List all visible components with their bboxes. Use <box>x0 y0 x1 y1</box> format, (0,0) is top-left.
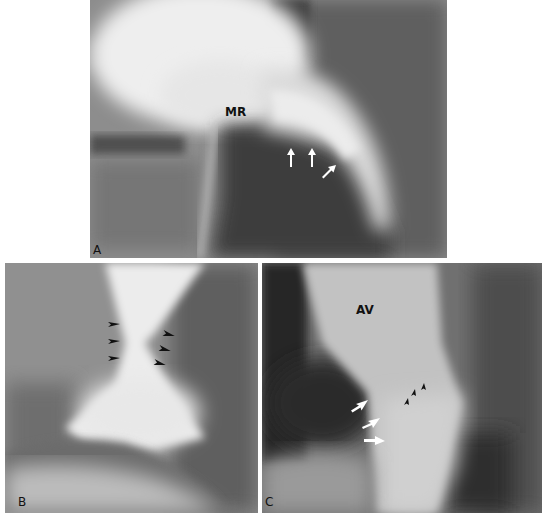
panel-a-radiograph: MR A <box>90 0 447 258</box>
white-arrow-icon <box>287 148 336 179</box>
panel-label-a: A <box>93 243 101 257</box>
panel-label-c: C <box>265 495 273 509</box>
panel-b-image <box>5 263 258 513</box>
panel-a-arrows <box>90 0 447 258</box>
panel-c-image <box>262 263 542 513</box>
label-av: AV <box>356 303 374 317</box>
panel-label-b: B <box>18 495 26 509</box>
panel-c-radiograph: AV C <box>262 263 542 513</box>
panel-b-radiograph: B <box>5 263 258 513</box>
